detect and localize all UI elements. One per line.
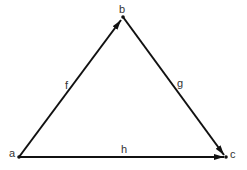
node-b-label: b [119,3,125,15]
node-c-dot [224,155,228,159]
node-c-label: c [230,148,236,160]
edge-h: h [19,143,224,157]
node-b-dot [121,15,125,19]
edge-h-label: h [121,143,127,155]
node-a: a [9,147,21,159]
edge-g-label: g [177,77,183,89]
node-a-dot [17,155,21,159]
node-c: c [224,148,236,160]
edge-g-line [123,17,224,155]
edge-f-line [19,20,121,157]
node-a-label: a [9,147,16,159]
edge-f: f [19,20,121,157]
edge-g: g [123,17,224,155]
node-b: b [119,3,125,19]
graph-diagram: f g h a b c [0,0,247,170]
